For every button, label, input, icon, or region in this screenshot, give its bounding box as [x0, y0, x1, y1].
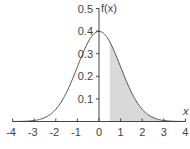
- x-tick-label: -2: [49, 126, 59, 138]
- y-tick-label: 0.5: [78, 3, 93, 15]
- normal-distribution-chart: -4-3-2-101234 0.10.20.30.40.5 x f(x): [0, 0, 190, 149]
- x-tick-label: 1: [118, 126, 124, 138]
- x-tick-label: 0: [96, 126, 102, 138]
- x-axis-label: x: [182, 105, 189, 117]
- x-tick-label: 2: [139, 126, 145, 138]
- y-tick-label: 0.3: [78, 48, 93, 60]
- x-tick-label: -1: [71, 126, 81, 138]
- y-tick-label: 0.1: [78, 93, 93, 105]
- x-tick-label: 4: [182, 126, 188, 138]
- x-tick-label: -3: [28, 126, 38, 138]
- x-tick-label: 3: [161, 126, 167, 138]
- shaded-area: [110, 42, 186, 122]
- x-tick-label: -4: [6, 126, 16, 138]
- y-tick-label: 0.2: [78, 70, 93, 82]
- y-axis-ticks: 0.10.20.30.40.5: [78, 3, 99, 105]
- y-axis-label: f(x): [101, 2, 117, 14]
- y-tick-label: 0.4: [78, 25, 93, 37]
